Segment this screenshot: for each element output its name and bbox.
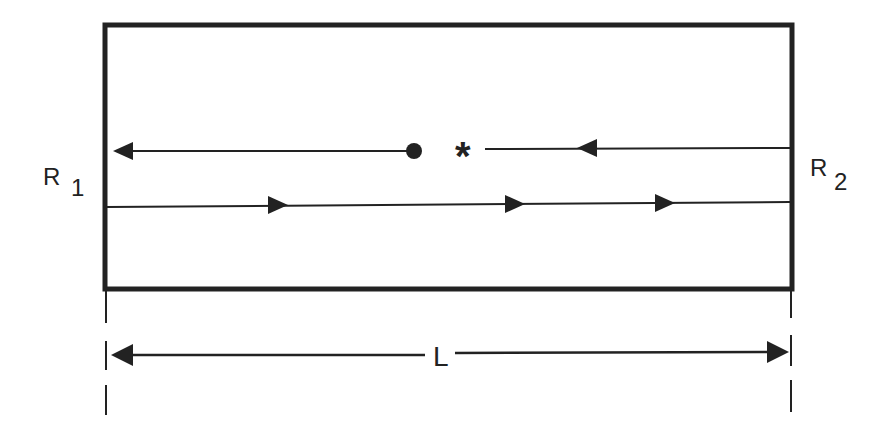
length-label: L: [433, 341, 449, 372]
arrow-left-icon: [111, 344, 133, 366]
length-dimension: [111, 341, 789, 366]
arrow-right-icon: [767, 341, 789, 363]
mirror-label-r1: R: [43, 163, 60, 190]
lower-beam-rightward: [107, 194, 790, 214]
mirror-label-r2: R: [810, 154, 827, 181]
star-marker: *: [455, 134, 471, 178]
upper-beam-leftward: [113, 139, 790, 160]
laser-cavity-diagram: * R 1 R 2 L: [0, 0, 890, 443]
mirror-label-r2-subscript: 2: [834, 168, 847, 195]
arrow-left-icon: [113, 142, 133, 160]
source-dot-icon: [406, 143, 422, 159]
arrow-right-icon: [268, 196, 288, 214]
arrow-right-icon: [505, 195, 525, 213]
arrow-left-icon: [577, 139, 597, 157]
arrow-right-icon: [655, 194, 675, 212]
mirror-label-r1-subscript: 1: [71, 174, 84, 201]
cavity-box: [105, 25, 792, 289]
